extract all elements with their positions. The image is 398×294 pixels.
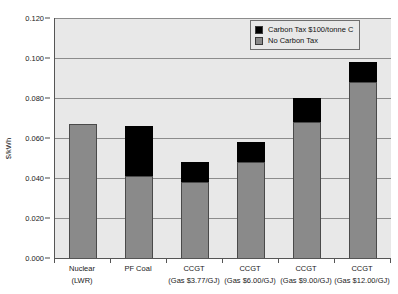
x-axis-category-line1: CCGT — [351, 264, 372, 273]
y-axis-tick-label: 0.080 — [0, 94, 44, 103]
legend-label: No Carbon Tax — [268, 36, 318, 45]
y-axis-tick-mark — [45, 138, 50, 139]
legend-swatch-icon — [255, 26, 263, 34]
bar-segment-carbon-tax — [125, 126, 153, 176]
bar-group — [167, 18, 223, 258]
y-axis-tick-label: 0.060 — [0, 134, 44, 143]
y-axis-tick-mark — [45, 98, 50, 99]
bar-segment-no-carbon-tax — [293, 122, 321, 258]
y-axis-tick-label: 0.020 — [0, 214, 44, 223]
bar-segment-no-carbon-tax — [349, 82, 377, 258]
chart-figure: $/kWh 0.0000.0200.0400.0600.0800.1000.12… — [0, 0, 398, 294]
y-axis-tick-label: 0.100 — [0, 54, 44, 63]
bar-segment-carbon-tax — [237, 142, 265, 162]
y-axis-tick-label: 0.120 — [0, 14, 44, 23]
x-axis-category-line2: (Gas $12.00/GJ) — [328, 275, 396, 287]
bar-segment-carbon-tax — [349, 62, 377, 82]
legend-item: Carbon Tax $100/tonne C — [255, 24, 353, 35]
legend-swatch-icon — [255, 37, 263, 45]
plot-area — [54, 18, 391, 259]
y-axis-tick-mark — [45, 218, 50, 219]
y-axis-tick-mark — [45, 178, 50, 179]
bar-group — [223, 18, 279, 258]
y-axis-ticks: 0.0000.0200.0400.0600.0800.1000.120 — [0, 0, 52, 294]
bar-group — [111, 18, 167, 258]
chart-legend: Carbon Tax $100/tonne CNo Carbon Tax — [250, 20, 360, 50]
y-axis-tick-mark — [45, 18, 50, 19]
bar-segment-no-carbon-tax — [69, 124, 97, 258]
bar-segment-no-carbon-tax — [125, 176, 153, 258]
bar-segment-no-carbon-tax — [181, 182, 209, 258]
x-axis-category-line1: PF Coal — [124, 264, 151, 273]
x-axis-category-line2: (LWR) — [48, 275, 116, 287]
x-axis-category-line1: Nuclear — [69, 264, 95, 273]
bar-series-group — [55, 18, 391, 258]
bar-segment-no-carbon-tax — [237, 162, 265, 258]
legend-item: No Carbon Tax — [255, 35, 353, 46]
x-axis-category-line1: CCGT — [295, 264, 316, 273]
y-axis-tick-label: 0.000 — [0, 254, 44, 263]
y-axis-tick-mark — [45, 58, 50, 59]
legend-label: Carbon Tax $100/tonne C — [268, 25, 353, 34]
x-axis-category-line1: CCGT — [183, 264, 204, 273]
y-axis-tick-label: 0.040 — [0, 174, 44, 183]
y-axis-tick-mark — [45, 258, 50, 259]
bar-group — [55, 18, 111, 258]
bar-segment-carbon-tax — [181, 162, 209, 182]
bar-group — [279, 18, 335, 258]
bar-segment-carbon-tax — [293, 98, 321, 122]
x-axis-category-line1: CCGT — [239, 264, 260, 273]
x-axis-category-label: CCGT(Gas $12.00/GJ) — [328, 263, 396, 286]
bar-group — [335, 18, 391, 258]
